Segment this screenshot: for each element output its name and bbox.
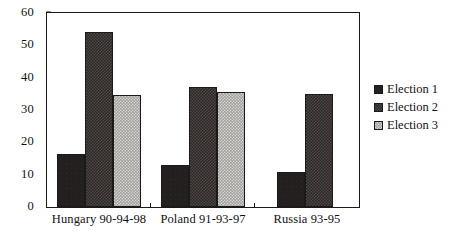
legend-item-election-2: Election 2 (374, 100, 454, 115)
x-axis-label-russia: Russia 93-95 (255, 213, 359, 227)
bar-group-poland (151, 13, 255, 207)
legend-swatch-icon (374, 121, 383, 130)
bar-russia-election-1 (277, 172, 305, 208)
bar-group-hungary (47, 13, 151, 207)
bar-poland-election-3 (217, 92, 245, 207)
x-axis-label-poland: Poland 91-93-97 (151, 213, 255, 227)
legend-label: Election 2 (387, 101, 438, 114)
legend-swatch-icon (374, 103, 383, 112)
legend-swatch-icon (374, 85, 383, 94)
bar-chart: 60 50 40 30 20 10 0 (0, 0, 457, 238)
legend: Election 1 Election 2 Election 3 (374, 82, 454, 136)
legend-item-election-3: Election 3 (374, 118, 454, 133)
bar-poland-election-1 (161, 165, 189, 207)
x-axis-labels: Hungary 90-94-98 Poland 91-93-97 Russia … (47, 213, 359, 227)
bar-hungary-election-2 (85, 32, 113, 207)
y-axis-tick-label: 50 (21, 38, 34, 51)
bar-hungary-election-3 (113, 95, 141, 207)
y-axis-tick-label: 40 (21, 70, 34, 83)
y-axis-tick-label: 60 (21, 6, 34, 19)
legend-label: Election 3 (387, 119, 438, 132)
y-axis-tick-label: 30 (21, 103, 34, 116)
plot-area (47, 13, 359, 207)
y-axis-tick-label: 20 (21, 135, 34, 148)
y-axis-tick-label: 0 (28, 200, 34, 213)
bar-hungary-election-1 (57, 154, 85, 207)
legend-label: Election 1 (387, 83, 438, 96)
bar-russia-election-2 (305, 94, 333, 207)
y-axis: 60 50 40 30 20 10 0 (0, 12, 42, 208)
bar-groups (47, 13, 359, 207)
x-axis-label-hungary: Hungary 90-94-98 (47, 213, 151, 227)
legend-item-election-1: Election 1 (374, 82, 454, 97)
y-axis-tick-label: 10 (21, 167, 34, 180)
bar-group-russia (255, 13, 359, 207)
bar-poland-election-2 (189, 87, 217, 207)
